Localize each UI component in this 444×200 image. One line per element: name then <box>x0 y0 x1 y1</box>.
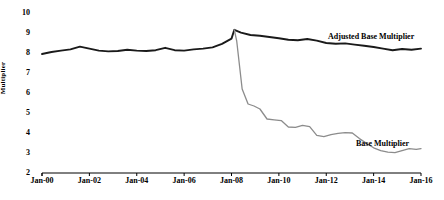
line-chart: Multiplier 1098765432 Jan-00Jan-02Jan-04… <box>0 0 444 200</box>
series-label: Base Multiplier <box>356 140 409 148</box>
series-line <box>234 30 421 153</box>
series-label: Adjusted Base Multiplier <box>328 33 414 41</box>
plot-area <box>0 0 444 200</box>
